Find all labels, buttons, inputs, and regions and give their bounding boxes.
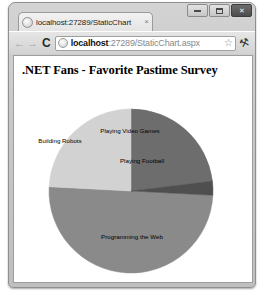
pie-slice-label: Programming the Web (101, 233, 163, 240)
bookmark-star-icon[interactable]: ☆ (224, 38, 233, 48)
maximize-icon (216, 8, 223, 14)
pie-slice-label: Playing Football (120, 157, 164, 164)
pie-slice (49, 109, 131, 191)
close-icon[interactable]: × (144, 18, 149, 26)
browser-window: localhost:27289/StaticChart × ✕ ← → C lo… (8, 2, 256, 288)
page-viewport: .NET Fans - Favorite Pastime Survey Prog… (13, 55, 253, 283)
pie-chart-svg: Programming the WebPlaying Video GamesBu… (14, 96, 253, 282)
address-path: :27289/StaticChart.aspx (108, 38, 199, 48)
pie-slice (131, 109, 212, 191)
window-controls: ✕ (187, 4, 252, 17)
pie-slice-label: Building Robots (38, 137, 81, 144)
address-bar-text: localhost:27289/StaticChart.aspx (71, 38, 224, 48)
maximize-button[interactable] (209, 4, 230, 17)
reload-button[interactable]: C (42, 37, 51, 49)
close-icon: ✕ (239, 7, 245, 14)
page-icon (58, 38, 68, 48)
close-window-button[interactable]: ✕ (231, 4, 252, 17)
browser-tab[interactable]: localhost:27289/StaticChart × (18, 12, 153, 31)
minimize-button[interactable] (187, 4, 208, 17)
wrench-menu-icon[interactable]: ⚒ (238, 36, 251, 50)
forward-button[interactable]: → (27, 38, 38, 49)
tab-strip: localhost:27289/StaticChart × ✕ (9, 3, 255, 31)
tab-title: localhost:27289/StaticChart (36, 18, 142, 27)
minimize-icon (194, 10, 201, 12)
globe-icon (22, 17, 33, 28)
pie-slice-label: Playing Video Games (100, 127, 159, 134)
page-title: .NET Fans - Favorite Pastime Survey (22, 63, 218, 78)
address-host: localhost (71, 38, 109, 48)
pie-chart: Programming the WebPlaying Video GamesBu… (14, 96, 253, 282)
back-button[interactable]: ← (14, 38, 25, 49)
address-bar[interactable]: localhost:27289/StaticChart.aspx ☆ (55, 36, 236, 51)
pie-slice (49, 187, 213, 273)
browser-toolbar: ← → C localhost:27289/StaticChart.aspx ☆… (9, 31, 255, 54)
